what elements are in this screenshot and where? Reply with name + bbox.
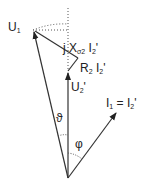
u1-label: U1 bbox=[8, 21, 21, 37]
i1-label: I1 = I2' bbox=[106, 97, 136, 113]
phi-arc bbox=[68, 153, 82, 159]
u2-label: U2' bbox=[71, 81, 86, 97]
theta-arc bbox=[58, 135, 68, 136]
r2-drop bbox=[68, 58, 78, 71]
phasor-diagram: U1 j Xσ2 I2' R2 I2' U2' I1 = I2' ϑ φ bbox=[0, 0, 150, 189]
jx-label: j Xσ2 I2' bbox=[63, 42, 98, 58]
r2-label: R2 I2' bbox=[80, 62, 105, 78]
theta-label: ϑ bbox=[56, 112, 63, 124]
phi-label: φ bbox=[75, 138, 83, 150]
